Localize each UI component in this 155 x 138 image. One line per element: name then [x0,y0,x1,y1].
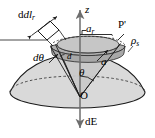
label-d-theta: dθ [33,52,44,63]
label-dE: dE [85,116,97,127]
label-a: a [101,56,107,67]
label-dl-r-main: dl [24,8,33,20]
label-dl-r: ddlr [18,9,35,21]
label-a-r-subscript: r [92,27,95,36]
label-theta: θ [79,67,84,78]
label-rho-s: ρs [131,35,139,47]
label-d-small: d [67,52,72,61]
label-z-axis: z [85,4,89,15]
label-p-prime: P' [118,19,126,30]
label-origin: O [80,90,88,101]
p-prime-marker [118,34,124,40]
label-a-r: ar [86,23,94,35]
label-dl-r-subscript: r [32,13,35,22]
label-rho-s-subscript: s [136,39,139,48]
figure-container: z ddlr ar P' ρs dθ d a θ O dE [0,0,155,138]
